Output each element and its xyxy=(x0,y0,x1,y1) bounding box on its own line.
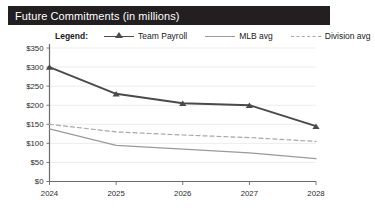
y-axis-tick-label: $300 xyxy=(26,63,44,72)
x-axis-tick-label: 2028 xyxy=(307,189,324,198)
x-axis-tick-label: 2025 xyxy=(107,189,125,198)
x-axis-tick-label: 2024 xyxy=(41,189,59,198)
y-axis-tick-label: $350 xyxy=(26,44,44,53)
y-axis-tick-label: $250 xyxy=(26,82,44,91)
series-line xyxy=(50,67,317,126)
data-series xyxy=(46,64,320,158)
y-axis-tick-label: $200 xyxy=(26,101,44,110)
y-axis-tick-label: $50 xyxy=(30,158,44,167)
y-axis-tick-label: $150 xyxy=(26,120,44,129)
y-axis-tick-label: $100 xyxy=(26,139,44,148)
y-axis-ticks: $0$50$100$150$200$250$300$350 xyxy=(26,44,44,187)
x-axis-tick-label: 2027 xyxy=(241,189,258,198)
axis-lines xyxy=(47,44,317,185)
y-axis-tick-label: $0 xyxy=(35,177,44,186)
x-axis-ticks: 20242025202620272028 xyxy=(41,189,325,198)
x-axis-tick-label: 2026 xyxy=(174,189,191,198)
